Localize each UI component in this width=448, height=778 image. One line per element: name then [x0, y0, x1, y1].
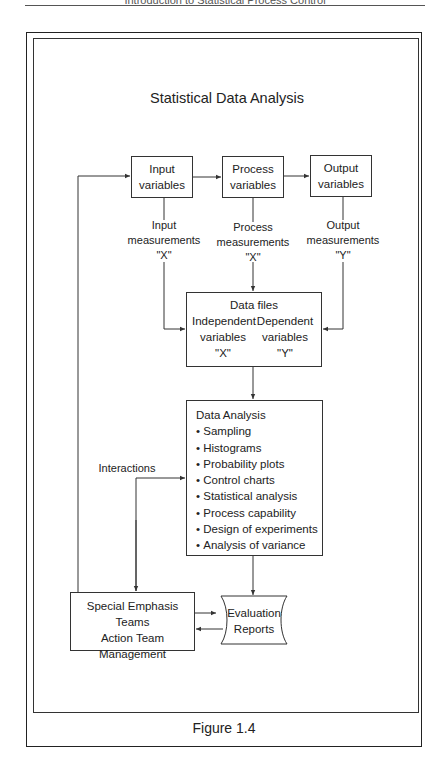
analysis-item: Probability plots — [196, 456, 322, 472]
analysis-item: Statistical analysis — [196, 488, 322, 504]
independent-variables: Independent variables "X" — [192, 313, 254, 361]
output-measurements-symbol: "Y" — [303, 248, 383, 263]
independent-line2: variables — [192, 329, 254, 345]
dependent-symbol: "Y" — [254, 345, 316, 361]
output-measurements-line1: Output — [303, 218, 383, 233]
output-measurements-label: Output measurements "Y" — [303, 218, 383, 263]
analysis-item: Sampling — [196, 423, 322, 439]
teams-line3: Management — [71, 646, 194, 662]
figure-caption: Figure 1.4 — [0, 720, 448, 736]
interactions-label: Interactions — [82, 461, 172, 476]
evaluation-reports-document: Evaluation Reports — [221, 605, 287, 637]
data-analysis-box: Data Analysis Sampling Histograms Probab… — [186, 400, 323, 556]
process-variables-line2: variables — [223, 177, 283, 193]
output-variables-box: Output variables — [310, 155, 372, 197]
data-files-title: Data files — [187, 297, 321, 313]
data-analysis-title: Data Analysis — [196, 407, 322, 423]
independent-symbol: "X" — [192, 345, 254, 361]
process-measurements-label: Process measurements "X" — [213, 220, 293, 265]
output-variables-line1: Output — [311, 160, 371, 176]
analysis-item: Control charts — [196, 472, 322, 488]
dependent-variables: Dependent variables "Y" — [254, 313, 316, 361]
independent-line1: Independent — [192, 313, 254, 329]
reports-line2: Reports — [221, 621, 287, 637]
process-variables-line1: Process — [223, 161, 283, 177]
input-measurements-line1: Input — [124, 218, 204, 233]
analysis-item: Design of experiments — [196, 521, 322, 537]
connector-lines — [0, 0, 448, 778]
process-variables-box: Process variables — [222, 156, 284, 198]
input-measurements-symbol: "X" — [124, 248, 204, 263]
output-variables-line2: variables — [311, 176, 371, 192]
teams-line1: Special Emphasis Teams — [71, 598, 194, 630]
data-files-box: Data files Independent variables "X" Dep… — [186, 292, 322, 367]
teams-line2: Action Team — [71, 630, 194, 646]
analysis-item: Analysis of variance — [196, 537, 322, 553]
teams-box: Special Emphasis Teams Action Team Manag… — [70, 592, 195, 651]
input-variables-line1: Input — [132, 161, 192, 177]
reports-line1: Evaluation — [221, 605, 287, 621]
input-measurements-line2: measurements — [124, 233, 204, 248]
input-variables-line2: variables — [132, 177, 192, 193]
dependent-line1: Dependent — [254, 313, 316, 329]
analysis-item: Histograms — [196, 440, 322, 456]
input-variables-box: Input variables — [131, 156, 193, 198]
analysis-item: Process capability — [196, 505, 322, 521]
process-measurements-line1: Process — [213, 220, 293, 235]
dependent-line2: variables — [254, 329, 316, 345]
process-measurements-symbol: "X" — [213, 250, 293, 265]
input-measurements-label: Input measurements "X" — [124, 218, 204, 263]
process-measurements-line2: measurements — [213, 235, 293, 250]
output-measurements-line2: measurements — [303, 233, 383, 248]
